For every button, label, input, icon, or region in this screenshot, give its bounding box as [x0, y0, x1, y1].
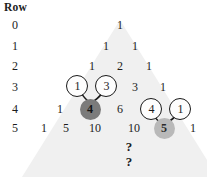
continuation-mark-2: ? — [122, 155, 136, 168]
triangle-cell-r3c2: 3 — [125, 81, 145, 93]
triangle-cell-r0c0: 1 — [110, 19, 130, 31]
row-label-0: 0 — [8, 19, 22, 31]
row-label-2: 2 — [8, 60, 22, 72]
row-label-1: 1 — [8, 40, 22, 52]
triangle-cell-r2c1: 2 — [110, 60, 130, 72]
row-label-3: 3 — [8, 81, 22, 93]
triangle-cell-r1c0: 1 — [96, 40, 116, 52]
triangle-cell-r5c2: 10 — [85, 122, 105, 134]
triangle-cell-r2c2: 1 — [139, 60, 159, 72]
continuation-mark-1: ? — [122, 140, 136, 153]
triangle-cell-r2c0: 1 — [82, 60, 102, 72]
triangle-cell-r4c2: 6 — [110, 103, 130, 115]
pascals-triangle-figure: Row 0 1 2 3 4 5 1 1 1 1 2 1 3 1 1 6 1 5 … — [0, 0, 207, 177]
triangle-cell-r5c5: 1 — [183, 122, 203, 134]
row-label-5: 5 — [8, 122, 22, 134]
triangle-cell-r5c0: 1 — [34, 122, 54, 134]
callout-circle-r3c1: 3 — [95, 75, 117, 97]
triangle-cell-r4c0: 1 — [50, 103, 70, 115]
row-column-header: Row — [4, 1, 27, 13]
callout-circle-r4c3: 4 — [140, 98, 162, 120]
triangle-cell-r5c3: 10 — [124, 122, 144, 134]
callout-circle-r4c4: 1 — [169, 98, 191, 120]
triangle-cell-r5c1: 5 — [56, 122, 76, 134]
callout-circle-r3c0: 1 — [66, 75, 88, 97]
highlighted-disc-r4c1: 4 — [80, 99, 101, 120]
triangle-cell-r1c1: 1 — [125, 40, 145, 52]
highlighted-disc-r5c4: 5 — [154, 118, 175, 139]
row-label-4: 4 — [8, 103, 22, 115]
triangle-cell-r3c3: 1 — [153, 81, 173, 93]
